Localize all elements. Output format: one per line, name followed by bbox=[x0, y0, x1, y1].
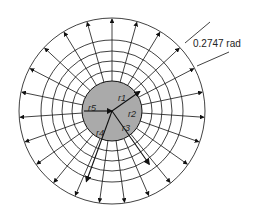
ray-arrow bbox=[30, 69, 85, 98]
ray-arrow bbox=[45, 48, 90, 90]
radius-label: r1 bbox=[118, 93, 126, 103]
ray-arrow bbox=[75, 139, 100, 196]
ray-arrow bbox=[54, 134, 93, 182]
ray-arrow bbox=[131, 134, 170, 182]
ray-arrow bbox=[139, 69, 194, 98]
ray-arrow bbox=[124, 139, 149, 196]
radius-label: r4 bbox=[96, 128, 104, 138]
radius-label: r3 bbox=[122, 123, 130, 133]
ray-arrow bbox=[128, 32, 160, 85]
angle-tick-lower bbox=[197, 52, 229, 66]
radial-diagram: r1r2r3r4r5 0.2747 rad bbox=[0, 0, 255, 217]
ray-arrow bbox=[134, 48, 179, 90]
ray-arrow bbox=[64, 32, 96, 85]
radius-label: r5 bbox=[88, 103, 97, 113]
radius-label: r2 bbox=[128, 109, 136, 119]
angle-label: 0.2747 rad bbox=[193, 38, 241, 49]
ray-arrow bbox=[140, 121, 198, 142]
ray-arrow bbox=[25, 121, 83, 142]
